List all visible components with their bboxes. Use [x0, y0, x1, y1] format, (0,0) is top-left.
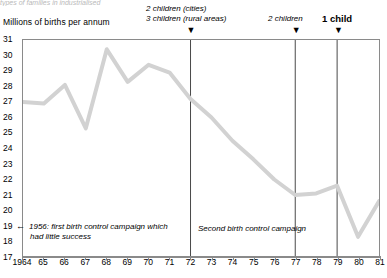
y-axis-tick: 20: [3, 206, 21, 215]
marker-1979-arrow-icon: ▼: [334, 26, 343, 35]
x-axis-tick-mark: [338, 256, 339, 260]
annotation-second-campaign-line1: Second birth control campaign: [198, 224, 306, 233]
x-axis-tick-mark: [22, 256, 23, 260]
x-axis-tick-mark: [190, 256, 191, 260]
marker-1972-label-line1: 2 children (cities): [146, 4, 226, 14]
y-axis-tick: 22: [3, 175, 21, 184]
annotation-1956-line2: had little success: [30, 232, 168, 242]
x-axis-tick-mark: [380, 256, 381, 260]
marker-1972-label-line2: 3 children (rural areas): [146, 14, 226, 24]
x-axis-tick-mark: [359, 256, 360, 260]
x-axis-tick-mark: [254, 256, 255, 260]
y-axis-tick: 29: [3, 66, 21, 75]
x-axis-tick-mark: [233, 256, 234, 260]
x-axis-tick-mark: [296, 256, 297, 260]
y-axis-tick: 30: [3, 51, 21, 60]
x-axis-tick-mark: [317, 256, 318, 260]
y-axis-tick: 23: [3, 160, 21, 169]
annotation-1956: ←1956: first birth control campaign whic…: [16, 222, 168, 242]
marker-1972-label: 2 children (cities)3 children (rural are…: [146, 4, 226, 23]
x-axis-tick-mark: [148, 256, 149, 260]
y-axis-tick: 27: [3, 97, 21, 106]
y-axis-tick: 28: [3, 82, 21, 91]
y-axis-tick: 21: [3, 191, 21, 200]
y-axis-tick: 31: [3, 35, 21, 44]
marker-1979-label: 1 child: [322, 14, 352, 24]
y-axis-tick: 25: [3, 128, 21, 137]
x-axis-tick-mark: [127, 256, 128, 260]
marker-1977-label: 2 children: [268, 14, 303, 24]
marker-1977-label-line1: 2 children: [268, 14, 303, 24]
x-axis-tick-mark: [85, 256, 86, 260]
marker-1979-label-line1: 1 child: [322, 14, 352, 24]
annotation-1956-line1: 1956: first birth control campaign which: [29, 222, 168, 231]
x-axis-tick-mark: [43, 256, 44, 260]
marker-1972-arrow-icon: ▼: [186, 26, 195, 35]
y-axis-tick: 26: [3, 113, 21, 122]
y-axis-tick: 24: [3, 144, 21, 153]
x-axis-tick-mark: [169, 256, 170, 260]
annotation-1956-arrow-icon: ←: [16, 221, 25, 231]
marker-1977-arrow-icon: ▼: [292, 26, 301, 35]
x-axis-tick-labels: 19646566676869707172737475767778798081: [0, 258, 387, 278]
x-axis-tick-mark: [275, 256, 276, 260]
x-axis-tick-mark: [64, 256, 65, 260]
annotation-second-campaign: Second birth control campaign: [198, 224, 306, 234]
birth-rate-chart: types of families in industrialised Mill…: [0, 0, 387, 278]
x-axis-tick-mark: [106, 256, 107, 260]
births-line-series: [23, 49, 379, 237]
x-axis-tick-mark: [212, 256, 213, 260]
